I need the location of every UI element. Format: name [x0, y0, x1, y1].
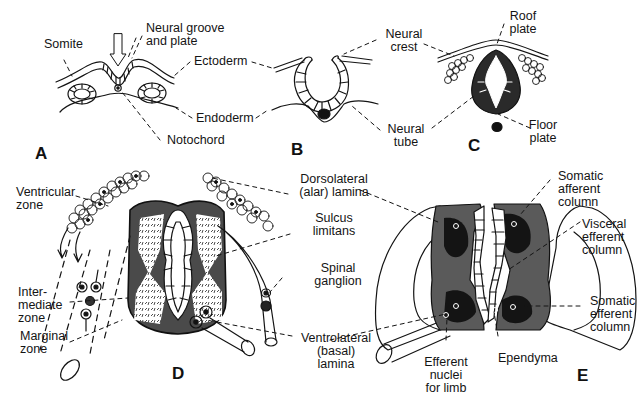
label-efferent-nuclei-line3: for limb — [420, 382, 472, 395]
label-somatic-afferent-line3: column — [558, 196, 598, 209]
label-dorsolateral-line2: (alar) lamina — [292, 186, 376, 199]
label-visceral-efferent-line3: column — [582, 244, 622, 257]
label-neural-groove-line2: and plate — [146, 35, 197, 48]
label-somite: Somite — [44, 38, 83, 51]
label-spinal-ganglion-line2: ganglion — [310, 275, 366, 288]
label-floor-plate-line2: plate — [526, 132, 560, 145]
neural-tube-development-figure: Somite Neural groove and plate Ectoderm … — [0, 0, 642, 404]
label-roof-plate-line2: plate — [506, 23, 540, 36]
label-marginal-line2: zone — [20, 343, 47, 356]
label-endoderm: Endoderm — [196, 112, 254, 125]
label-ventricular-line2: zone — [16, 199, 43, 212]
panel-letter-d: D — [172, 364, 184, 384]
label-intermediate-line3: zone — [18, 312, 45, 325]
panel-letter-a: A — [35, 144, 47, 164]
label-notochord: Notochord — [167, 134, 225, 147]
panel-letter-e: E — [577, 366, 588, 386]
panel-d-drawing — [40, 171, 277, 384]
label-ependyma: Ependyma — [498, 352, 558, 365]
label-neural-crest-b-line2: crest — [382, 41, 426, 54]
panel-letter-c: C — [468, 136, 480, 156]
label-ventrolateral-line3: lamina — [294, 358, 378, 371]
panel-letter-b: B — [291, 140, 303, 160]
label-ectoderm: Ectoderm — [194, 55, 248, 68]
label-somatic-efferent-line3: column — [590, 321, 630, 334]
label-neural-tube-line2: tube — [384, 136, 428, 149]
label-sulcus-line2: limitans — [306, 225, 362, 238]
panel-b-drawing — [272, 56, 378, 122]
